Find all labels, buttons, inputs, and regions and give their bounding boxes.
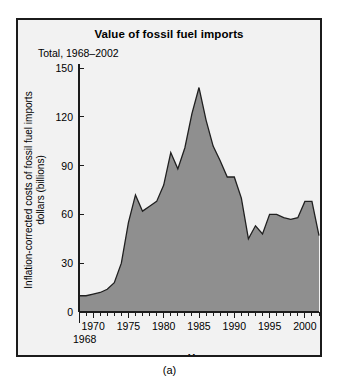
area-series-fill — [79, 88, 319, 312]
figure-container: Value of fossil fuel imports Total, 1968… — [0, 0, 339, 391]
x-axis-origin-label: 1968 — [73, 333, 97, 345]
y-tick-label: 90 — [61, 160, 73, 172]
x-axis-title: Year — [188, 352, 210, 355]
y-tick-label: 0 — [67, 306, 73, 318]
figure-caption: (a) — [0, 364, 339, 376]
x-axis-tick-labels: 1970197519801985199019952000 — [81, 320, 316, 332]
chart-panel: Value of fossil fuel imports Total, 1968… — [16, 18, 322, 357]
y-tick-label: 30 — [61, 257, 73, 269]
x-tick-label: 2000 — [293, 320, 317, 332]
y-axis-tick-labels: 0306090120150 — [55, 62, 73, 318]
y-axis-title-line2: dollars (billions) — [35, 155, 46, 224]
chart-plot-area: 0306090120150 19701975198019851990199520… — [18, 20, 320, 355]
x-tick-label: 1970 — [81, 320, 105, 332]
x-tick-label: 1985 — [187, 320, 211, 332]
y-axis-title-line1: Inflation-corrected costs of fossil fuel… — [23, 91, 34, 288]
x-tick-label: 1990 — [223, 320, 247, 332]
x-tick-label: 1995 — [258, 320, 282, 332]
x-tick-label: 1980 — [152, 320, 176, 332]
y-axis-ticks — [79, 68, 84, 312]
y-tick-label: 60 — [61, 208, 73, 220]
x-tick-label: 1975 — [117, 320, 141, 332]
y-tick-label: 120 — [55, 111, 73, 123]
y-tick-label: 150 — [55, 62, 73, 74]
chart-panel-inner: Value of fossil fuel imports Total, 1968… — [18, 20, 320, 355]
